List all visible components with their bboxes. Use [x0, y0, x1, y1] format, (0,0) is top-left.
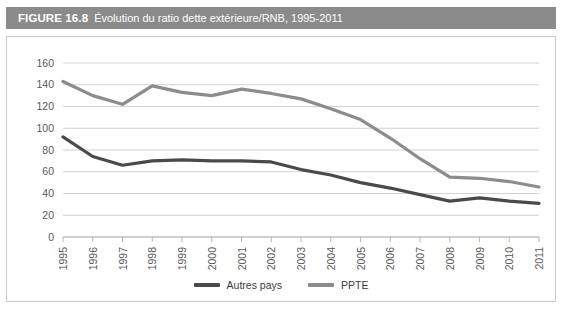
x-axis-tick-label: 2000: [206, 247, 218, 271]
y-axis-tick-label: 140: [36, 78, 54, 90]
x-axis-tick-label: 2006: [384, 247, 396, 271]
line-chart: 0204060801001201401601995199619971998199…: [7, 37, 557, 303]
legend-swatch-autres-pays: [194, 283, 220, 287]
legend-label-autres-pays: Autres pays: [227, 279, 282, 291]
y-axis-tick-label: 60: [42, 165, 54, 177]
x-axis-tick-label: 2005: [355, 247, 367, 271]
legend-item-autres-pays: Autres pays: [194, 279, 282, 291]
y-axis-tick-label: 40: [42, 187, 54, 199]
figure-title-bar: FIGURE 16.8 Évolution du ratio dette ext…: [6, 7, 556, 29]
x-axis-tick-label: 2004: [325, 247, 337, 271]
x-axis-tick-label: 2002: [265, 247, 277, 271]
x-axis-tick-label: 2010: [503, 247, 515, 271]
x-axis-tick-label: 2003: [295, 247, 307, 271]
chart-plot-area: 0204060801001201401601995199619971998199…: [7, 37, 557, 303]
x-axis-tick-label: 2001: [236, 247, 248, 271]
legend-label-ppte: PPTE: [341, 279, 368, 291]
x-axis-tick-label: 2009: [474, 247, 486, 271]
x-axis-tick-label: 1999: [176, 247, 188, 271]
x-axis-tick-label: 2011: [533, 247, 545, 270]
y-axis-tick-label: 80: [42, 144, 54, 156]
figure-number: FIGURE 16.8: [18, 12, 88, 24]
y-axis-tick-label: 160: [36, 57, 54, 69]
legend-swatch-ppte: [308, 283, 334, 287]
x-axis-tick-label: 2007: [414, 247, 426, 271]
chart-panel: 0204060801001201401601995199619971998199…: [6, 36, 556, 302]
x-axis-tick-label: 1996: [87, 247, 99, 271]
x-axis-tick-label: 1997: [117, 247, 129, 271]
y-axis-tick-label: 0: [48, 231, 54, 243]
x-axis-tick-label: 1998: [146, 247, 158, 271]
y-axis-tick-label: 20: [42, 209, 54, 221]
legend-item-ppte: PPTE: [308, 279, 368, 291]
figure-container: FIGURE 16.8 Évolution du ratio dette ext…: [0, 0, 562, 312]
y-axis-tick-label: 100: [36, 122, 54, 134]
x-axis-tick-label: 1995: [57, 247, 69, 271]
x-axis-tick-label: 2008: [444, 247, 456, 271]
y-axis-tick-label: 120: [36, 100, 54, 112]
chart-legend: Autres pays PPTE: [7, 279, 555, 291]
figure-caption: Évolution du ratio dette extérieure/RNB,…: [94, 12, 343, 24]
